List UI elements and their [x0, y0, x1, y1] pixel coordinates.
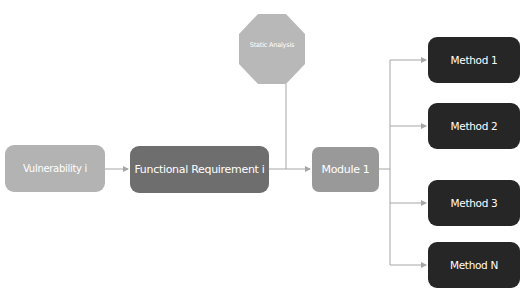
static-analysis-node: Static Analysis	[239, 14, 305, 84]
module-node: Module 1	[312, 147, 379, 192]
module-label: Module 1	[321, 163, 369, 176]
octagon-shape	[239, 14, 305, 84]
method-label: Method 2	[451, 120, 498, 132]
method-node: Method 2	[428, 103, 520, 149]
method-label: Method 1	[451, 54, 498, 66]
functional-requirement-label: Functional Requirement i	[134, 163, 264, 176]
method-node: Method 3	[428, 180, 520, 226]
vulnerability-label: Vulnerability i	[23, 163, 87, 174]
static-analysis-label: Static Analysis	[250, 41, 294, 49]
method-label: Method N	[450, 259, 498, 271]
functional-requirement-node: Functional Requirement i	[130, 146, 269, 193]
method-node: Method N	[428, 242, 520, 288]
method-label: Method 3	[451, 197, 498, 209]
method-node: Method 1	[428, 37, 520, 83]
vulnerability-node: Vulnerability i	[5, 145, 105, 192]
